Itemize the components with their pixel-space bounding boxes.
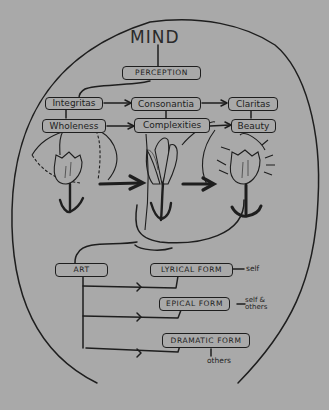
node-claritas: Claritas <box>228 97 278 111</box>
diagram-lines <box>0 0 329 410</box>
node-dramatic-form: DRAMATIC FORM <box>162 333 250 348</box>
node-wholeness: Wholeness <box>42 119 106 133</box>
node-art: ART <box>55 263 108 277</box>
note-others: others <box>207 357 231 365</box>
node-perception: PERCEPTION <box>122 66 201 80</box>
flower-radiant-tulip <box>202 130 275 185</box>
note-self: self <box>246 265 259 273</box>
flower-closed-tulip <box>32 131 117 184</box>
node-complexities: Complexities <box>134 118 210 133</box>
node-lyrical-form: LYRICAL FORM <box>150 263 233 277</box>
node-consonantia: Consonantia <box>131 97 201 111</box>
node-epical-form: EPICAL FORM <box>159 297 230 311</box>
mind-title: MIND <box>130 27 180 47</box>
node-integritas: Integritas <box>45 97 103 110</box>
node-beauty: Beauty <box>231 119 276 133</box>
note-self-and-others: self & others <box>245 297 275 311</box>
